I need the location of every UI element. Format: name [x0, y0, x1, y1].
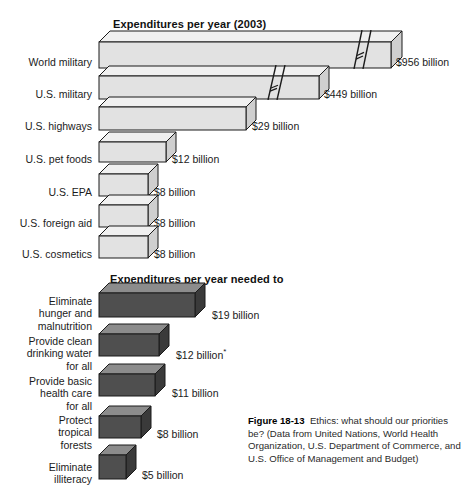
value-label-text: $19 billion: [212, 309, 259, 321]
bar-3d: [98, 444, 137, 480]
value-label: $8 billion: [157, 428, 198, 440]
value-label-text: $12 billion: [172, 153, 219, 165]
value-label-text: $29 billion: [252, 120, 299, 132]
bar-3d: [98, 163, 159, 197]
value-label: $11 billion: [172, 387, 219, 399]
value-label-text: $956 billion: [396, 56, 449, 68]
value-label-text: $8 billion: [154, 217, 195, 229]
category-label: U.S. EPA: [0, 186, 92, 198]
category-label: U.S. pet foods: [0, 153, 92, 165]
value-label: $12 billion*: [176, 347, 226, 361]
bar-3d: [98, 194, 159, 228]
value-label: $8 billion: [154, 217, 195, 229]
category-label: U.S. highways: [0, 120, 92, 132]
value-label: $8 billion: [154, 186, 195, 198]
value-label: $19 billion: [212, 309, 259, 321]
value-label-text: $12 billion: [176, 349, 223, 361]
value-label-text: $8 billion: [154, 186, 195, 198]
category-label: U.S. foreign aid: [0, 217, 92, 229]
value-label: $449 billion: [324, 88, 377, 100]
category-label: U.S. military: [0, 88, 92, 100]
top-chart-title: Expenditures per year (2003): [113, 18, 266, 30]
value-label: $29 billion: [252, 120, 299, 132]
category-label: World military: [0, 56, 92, 68]
value-label-text: $449 billion: [324, 88, 377, 100]
value-label: $5 billion: [142, 469, 183, 481]
value-label: $12 billion: [172, 153, 219, 165]
bar-3d: [98, 323, 170, 357]
bar-3d: [98, 225, 159, 259]
bar-3d: [98, 96, 257, 131]
bar-3d: [98, 282, 206, 318]
value-label-text: $8 billion: [154, 248, 195, 260]
figure-caption-label: Figure 18-13: [248, 415, 305, 426]
footnote-marker: *: [223, 347, 226, 356]
category-label: Protect tropical forests: [0, 414, 92, 451]
figure-18-13: Expenditures per year (2003) Expenditure…: [0, 0, 469, 504]
bar-3d: [98, 30, 403, 69]
bar-3d: [98, 405, 152, 439]
category-label: Eliminate hunger and malnutrition: [0, 295, 92, 332]
value-label-text: $8 billion: [157, 428, 198, 440]
bar-3d: [98, 131, 177, 163]
value-label: $956 billion: [396, 56, 449, 68]
category-label: Eliminate illiteracy: [0, 461, 92, 486]
figure-caption: Figure 18-13 Ethics: what should our pri…: [248, 415, 464, 465]
value-label-text: $5 billion: [142, 469, 183, 481]
bar-3d: [98, 363, 166, 397]
category-label: Provide basic health care for all: [0, 375, 92, 412]
value-label-text: $11 billion: [172, 387, 219, 399]
value-label: $8 billion: [154, 248, 195, 260]
category-label: U.S. cosmetics: [0, 248, 92, 260]
category-label: Provide clean drinking water for all: [0, 335, 92, 372]
bar-3d: [98, 65, 330, 100]
